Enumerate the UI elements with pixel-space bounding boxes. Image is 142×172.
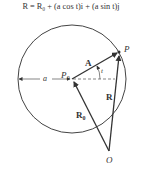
label-O: O: [106, 155, 113, 165]
label-P: P: [123, 44, 130, 54]
label-R: R: [106, 92, 113, 102]
label-P0: P0: [60, 70, 70, 81]
label-R0: R0: [76, 110, 86, 121]
circle-vector-diagram: P P0 A t a R R0 O: [0, 0, 142, 172]
label-A: A: [85, 58, 92, 68]
vector-R: [109, 56, 119, 151]
vector-A: [72, 53, 117, 79]
point-P: [118, 51, 121, 54]
label-t: t: [101, 67, 104, 75]
angle-t-arc: [97, 66, 100, 79]
label-a: a: [43, 74, 47, 83]
